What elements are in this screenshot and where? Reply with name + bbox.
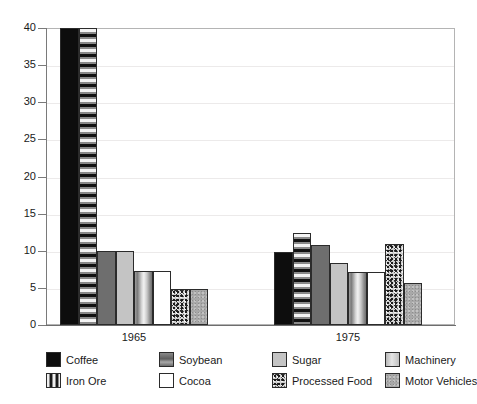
y-axis-tick-label: 25 bbox=[0, 133, 36, 144]
legend-label: Coffee bbox=[66, 354, 98, 366]
legend-label: Iron Ore bbox=[66, 375, 106, 387]
legend-item-soybean[interactable]: Soybean bbox=[159, 350, 222, 369]
x-axis bbox=[46, 325, 456, 326]
y-axis-tick bbox=[38, 177, 46, 178]
legend-item-processedfood[interactable]: Processed Food bbox=[272, 371, 372, 390]
bar-processedfood-1965 bbox=[171, 289, 190, 325]
legend-label: Cocoa bbox=[179, 375, 211, 387]
y-axis-tick-label: 35 bbox=[0, 59, 36, 70]
bar-machinery-1975 bbox=[348, 272, 367, 325]
bar-processedfood-1975 bbox=[385, 244, 404, 325]
legend-swatch-sugar-icon bbox=[272, 352, 287, 367]
legend-item-machinery[interactable]: Machinery bbox=[385, 350, 456, 369]
y-axis-tick-label-wrap: 30 bbox=[0, 96, 36, 107]
bar-ironore-1965 bbox=[79, 28, 98, 325]
y-axis-tick-label: 40 bbox=[0, 22, 36, 33]
legend-swatch-ironore-icon bbox=[46, 373, 61, 388]
y-axis-tick-label: 20 bbox=[0, 171, 36, 182]
y-axis-tick bbox=[38, 214, 46, 215]
bar-soybean-1975 bbox=[311, 245, 330, 325]
bar-cocoa-1965 bbox=[153, 271, 172, 325]
bar-sugar-1965 bbox=[116, 251, 135, 325]
legend-label: Machinery bbox=[405, 354, 456, 366]
y-axis-tick-label: 10 bbox=[0, 245, 36, 256]
y-axis-tick-label: 30 bbox=[0, 96, 36, 107]
legend-swatch-motorvehicles-icon bbox=[385, 373, 400, 388]
y-axis-tick-label-wrap: 40 bbox=[0, 22, 36, 33]
y-axis-tick-label-wrap: 25 bbox=[0, 133, 36, 144]
y-axis-tick-label: 0 bbox=[0, 319, 36, 330]
bar-coffee-1965 bbox=[60, 28, 79, 325]
legend-row: Iron OreCocoaProcessed FoodMotor Vehicle… bbox=[46, 371, 456, 390]
bar-sugar-1975 bbox=[330, 263, 349, 325]
bar-coffee-1975 bbox=[274, 252, 293, 326]
y-axis-tick bbox=[38, 102, 46, 103]
bar-soybean-1965 bbox=[97, 251, 116, 325]
y-axis-tick-label-wrap: 0 bbox=[0, 319, 36, 330]
bar-cocoa-1975 bbox=[367, 272, 386, 325]
legend-swatch-soybean-icon bbox=[159, 352, 174, 367]
legend-row: CoffeeSoybeanSugarMachinery bbox=[46, 350, 456, 369]
legend-item-sugar[interactable]: Sugar bbox=[272, 350, 321, 369]
y-axis-tick bbox=[38, 28, 46, 29]
bar-ironore-1975 bbox=[293, 233, 312, 325]
legend-swatch-machinery-icon bbox=[385, 352, 400, 367]
y-axis-tick bbox=[38, 251, 46, 252]
bar-motorvehicles-1965 bbox=[190, 289, 209, 325]
y-axis-tick bbox=[38, 65, 46, 66]
y-axis-tick bbox=[38, 288, 46, 289]
legend-item-ironore[interactable]: Iron Ore bbox=[46, 371, 106, 390]
legend-label: Processed Food bbox=[292, 375, 372, 387]
legend-swatch-cocoa-icon bbox=[159, 373, 174, 388]
legend-item-cocoa[interactable]: Cocoa bbox=[159, 371, 211, 390]
legend-label: Motor Vehicles bbox=[405, 375, 477, 387]
y-axis-tick-label-wrap: 10 bbox=[0, 245, 36, 256]
bar-machinery-1965 bbox=[134, 271, 153, 325]
legend-item-coffee[interactable]: Coffee bbox=[46, 350, 98, 369]
y-axis-tick bbox=[38, 325, 46, 326]
x-axis-group-label: 1975 bbox=[318, 331, 378, 344]
bar-motorvehicles-1975 bbox=[404, 283, 423, 325]
legend-label: Sugar bbox=[292, 354, 321, 366]
y-axis-tick bbox=[38, 139, 46, 140]
y-axis-tick-label-wrap: 20 bbox=[0, 171, 36, 182]
y-axis-tick-label-wrap: 15 bbox=[0, 208, 36, 219]
y-axis-tick-label-wrap: 35 bbox=[0, 59, 36, 70]
legend-item-motorvehicles[interactable]: Motor Vehicles bbox=[385, 371, 477, 390]
legend-swatch-coffee-icon bbox=[46, 352, 61, 367]
legend: CoffeeSoybeanSugarMachineryIron OreCocoa… bbox=[46, 350, 456, 394]
legend-label: Soybean bbox=[179, 354, 222, 366]
y-axis-tick-label-wrap: 5 bbox=[0, 282, 36, 293]
bars-layer bbox=[46, 28, 455, 325]
y-axis-tick-label: 5 bbox=[0, 282, 36, 293]
x-axis-group-label: 1965 bbox=[104, 331, 164, 344]
legend-swatch-processedfood-icon bbox=[272, 373, 287, 388]
y-axis-tick-label: 15 bbox=[0, 208, 36, 219]
